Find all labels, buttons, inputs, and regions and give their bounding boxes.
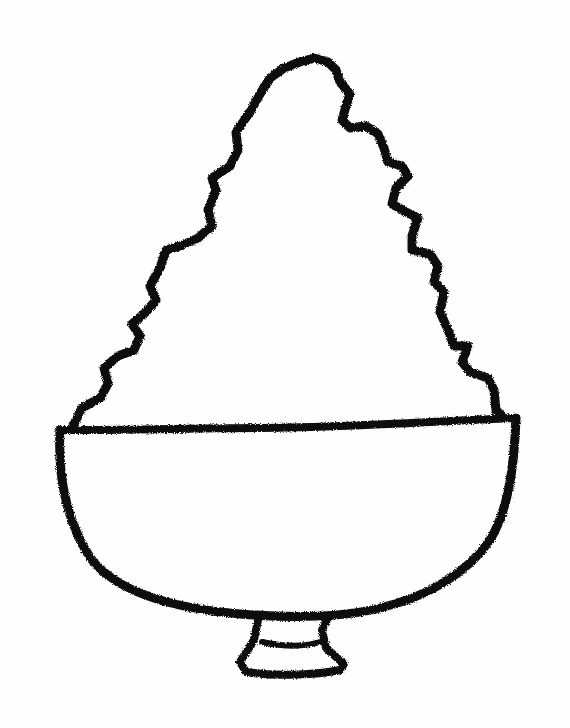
mound-outline bbox=[72, 58, 504, 428]
bowl-rim bbox=[60, 418, 514, 430]
bowl-body bbox=[60, 418, 516, 616]
bowl-foot-inner-line bbox=[262, 642, 320, 646]
bowl-drawing bbox=[0, 0, 570, 728]
drawing-canvas bbox=[0, 0, 570, 728]
